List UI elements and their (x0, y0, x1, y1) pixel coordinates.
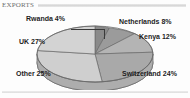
pie-slice-uk[interactable] (37, 26, 95, 54)
rwanda-leader-line-horizontal (71, 29, 105, 30)
footer-divider (2, 91, 188, 93)
pie-label-switzerland: Switzerland 24% (122, 70, 177, 78)
pie-label-netherlands: Netherlands 8% (119, 18, 172, 26)
header-divider (38, 4, 186, 7)
rwanda-leader-line-vertical (104, 29, 105, 39)
pie-label-kenya: Kenya 12% (139, 33, 176, 41)
pie-label-uk: UK 27% (19, 38, 45, 46)
exports-chart-screen: EXPORTS (0, 0, 190, 98)
pie-label-rwanda: Rwanda 4% (26, 15, 65, 23)
pie-label-other: Other 25% (16, 70, 51, 78)
page-title: EXPORTS (2, 1, 34, 10)
